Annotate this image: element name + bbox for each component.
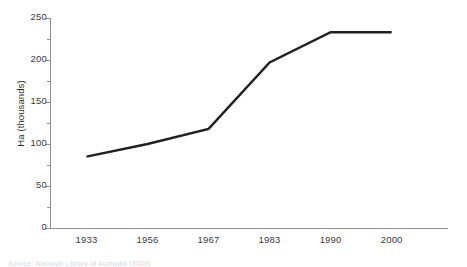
y-tick-label: 150 <box>31 95 47 106</box>
y-tick-label: 50 <box>36 179 47 190</box>
y-axis-title: Ha (thousands) <box>15 49 26 179</box>
plot-area: 050100150200250 193319561967198319902000 <box>50 18 448 228</box>
y-tick-label: 0 <box>42 221 47 232</box>
y-tick-label: 200 <box>31 53 47 64</box>
x-tick-label-1967: 1967 <box>198 234 220 245</box>
x-tick-label-2000: 2000 <box>381 234 403 245</box>
series-polyline <box>87 32 392 156</box>
y-tick-label: 250 <box>31 11 47 22</box>
figure-caption: Source: National Library of Australia (2… <box>8 260 151 267</box>
data-series-line <box>50 18 448 229</box>
x-tick-label-1990: 1990 <box>320 234 342 245</box>
x-tick-label-1983: 1983 <box>259 234 281 245</box>
x-tick-label-1956: 1956 <box>137 234 159 245</box>
y-tick-label: 100 <box>31 137 47 148</box>
x-tick-label-1933: 1933 <box>76 234 98 245</box>
